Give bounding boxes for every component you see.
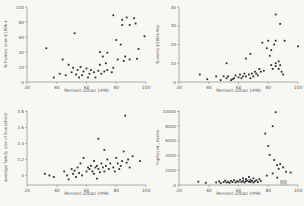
data-point	[90, 69, 92, 71]
y-tick-label: 4000	[165, 153, 176, 158]
data-point	[65, 74, 67, 76]
y-tick-label: 3.4	[17, 141, 24, 146]
data-point	[106, 52, 108, 54]
data-point	[133, 17, 135, 19]
data-point	[98, 168, 100, 170]
data-point	[272, 68, 274, 70]
data-point	[71, 71, 73, 73]
data-point	[284, 40, 286, 42]
data-point	[120, 165, 122, 167]
data-point	[102, 167, 104, 169]
y-tick-label: 0	[173, 183, 176, 188]
data-point	[63, 171, 65, 173]
data-point	[232, 181, 234, 183]
y-tick-label: 10000	[163, 109, 177, 114]
data-point	[53, 176, 55, 178]
data-point	[269, 154, 271, 156]
data-point	[239, 74, 241, 76]
data-point	[81, 175, 83, 177]
data-point	[45, 47, 47, 49]
y-tick-label: 3.6	[17, 125, 24, 130]
data-point	[199, 74, 201, 76]
data-point	[121, 24, 123, 26]
data-point	[226, 62, 228, 64]
panel-bottom-right: 204060801000200040006000800010000 Pop/sq…	[152, 103, 304, 206]
data-point	[279, 64, 281, 66]
data-point	[83, 71, 85, 73]
data-point	[270, 64, 272, 66]
y-tick-label: 40	[171, 5, 177, 10]
data-point	[266, 47, 268, 49]
data-point	[81, 74, 83, 76]
data-point	[251, 73, 253, 75]
data-point	[105, 62, 107, 64]
data-point	[278, 168, 280, 170]
data-point	[95, 77, 97, 79]
data-point	[278, 60, 280, 62]
data-point	[279, 23, 281, 25]
data-point	[250, 77, 252, 79]
data-point	[220, 182, 222, 184]
data-point	[275, 40, 277, 42]
data-point	[71, 168, 73, 170]
data-point	[93, 71, 95, 73]
data-point	[66, 175, 68, 177]
y-tick-label: 20	[19, 65, 25, 70]
y-tick-label: 40	[19, 50, 25, 55]
data-point	[297, 45, 299, 47]
data-point	[266, 175, 268, 177]
data-point	[124, 115, 126, 117]
x-axis-label: Percent urban 1990	[27, 191, 146, 196]
data-point	[269, 55, 271, 57]
data-point	[80, 66, 82, 68]
x-axis-label: Percent urban 1990	[179, 191, 298, 196]
data-point	[275, 65, 277, 67]
data-point	[109, 163, 111, 165]
data-point	[276, 164, 278, 166]
data-point	[261, 42, 263, 44]
y-tick-label: 20	[171, 42, 177, 47]
data-point	[123, 151, 125, 153]
data-point	[99, 64, 101, 66]
data-point	[260, 71, 262, 73]
data-point	[257, 75, 259, 77]
y-axis-label: Pop/sq mi, metro	[155, 110, 161, 185]
data-point	[245, 75, 247, 77]
data-point	[244, 73, 246, 75]
data-point	[235, 75, 237, 77]
data-point	[138, 48, 140, 50]
data-point	[264, 133, 266, 135]
data-point	[62, 59, 64, 61]
data-point	[136, 58, 138, 60]
data-point	[121, 160, 123, 162]
data-point	[197, 181, 199, 183]
y-tick-label: 0	[173, 80, 176, 85]
data-point	[59, 73, 61, 75]
data-point	[90, 165, 92, 167]
data-point	[275, 62, 277, 64]
data-point	[99, 51, 101, 53]
data-point	[112, 14, 114, 16]
data-point	[285, 171, 287, 173]
data-point	[86, 171, 88, 173]
data-point	[206, 78, 208, 80]
data-point	[121, 19, 123, 21]
data-point	[218, 180, 220, 182]
data-point	[87, 77, 89, 79]
panel-top-right: 20406080100010203040 % rents $500+/mo Pe…	[152, 0, 304, 103]
data-point	[267, 40, 269, 42]
y-tick-label: 3	[21, 173, 24, 178]
data-point	[276, 177, 278, 179]
data-point	[144, 35, 146, 37]
data-point	[72, 67, 74, 69]
data-point	[290, 172, 292, 174]
data-point	[89, 73, 91, 75]
data-point	[114, 171, 116, 173]
y-tick-label: 6000	[165, 138, 176, 143]
data-point	[260, 180, 262, 182]
data-point	[96, 178, 98, 180]
data-point	[229, 182, 231, 184]
data-point	[53, 77, 55, 79]
data-point	[238, 76, 240, 78]
data-point	[281, 71, 283, 73]
